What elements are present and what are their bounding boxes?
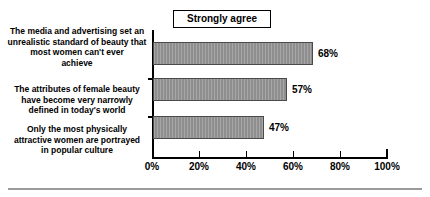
bar-0 [153,42,313,65]
x-axis-label-2: 40% [236,162,256,172]
x-axis-tick-80 [340,151,341,157]
category-axis-labels: The media and advertising set an unreali… [6,30,148,158]
legend-box: Strongly agree [173,10,271,28]
bottom-divider [8,188,422,190]
category-label-2: Only the most physically attractive wome… [6,124,148,156]
x-axis-label-1: 20% [189,162,209,172]
x-axis-label-5: 100% [374,162,400,172]
x-axis-tick-60 [293,151,294,157]
bar-value-label-2: 47% [269,123,289,133]
bar-2 [153,116,264,139]
category-label-0: The media and advertising set an unreali… [6,26,148,68]
x-axis-label-4: 80% [330,162,350,172]
category-label-1: The attributes of female beauty have bec… [6,84,148,116]
chart-screenshot: Strongly agree The media and advertising… [0,0,430,197]
x-axis-tick-labels: 0% 20% 40% 60% 80% 100% [152,162,388,176]
x-axis-line [152,157,388,159]
plot-area: 68% 57% 47% [152,30,388,158]
x-axis-label-0: 0% [145,162,159,172]
x-axis-tick-20 [199,151,200,157]
legend-label: Strongly agree [187,14,257,24]
bar-value-label-0: 68% [318,49,338,59]
x-axis-tick-0 [152,151,153,157]
bar-1 [153,78,287,101]
x-axis-end-cap [386,149,388,159]
bar-value-label-1: 57% [292,85,312,95]
x-axis-label-3: 60% [283,162,303,172]
x-axis-tick-40 [246,151,247,157]
